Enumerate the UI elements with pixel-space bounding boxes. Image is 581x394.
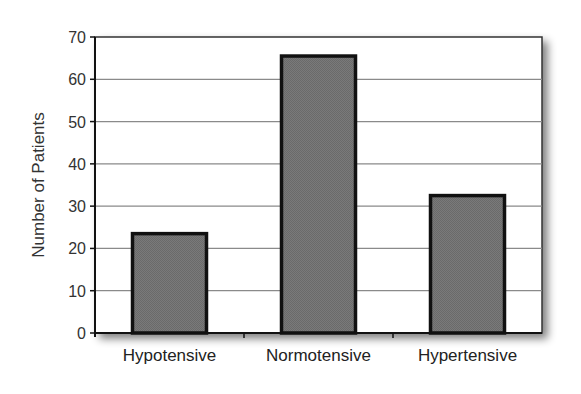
x-axis-category-labels: HypotensiveNormotensiveHypertensive [123, 346, 517, 365]
y-tick-label: 10 [68, 283, 86, 300]
y-axis-tick-labels: 010203040506070 [68, 29, 86, 342]
y-tick-label: 40 [68, 156, 86, 173]
bar-hypertensive [431, 196, 505, 333]
y-tick-label: 50 [68, 114, 86, 131]
y-tick-label: 60 [68, 71, 86, 88]
x-category-label: Normotensive [266, 346, 371, 365]
y-tick-label: 0 [77, 325, 86, 342]
y-axis-title: Number of Patients [29, 112, 48, 258]
x-category-label: Hypertensive [418, 346, 517, 365]
bar-normotensive [282, 56, 356, 333]
bar-chart: 010203040506070 HypotensiveNormotensiveH… [0, 0, 581, 394]
y-tick-label: 30 [68, 198, 86, 215]
y-tick-label: 20 [68, 240, 86, 257]
bar-hypotensive [133, 234, 207, 333]
x-category-label: Hypotensive [123, 346, 217, 365]
y-tick-label: 70 [68, 29, 86, 46]
